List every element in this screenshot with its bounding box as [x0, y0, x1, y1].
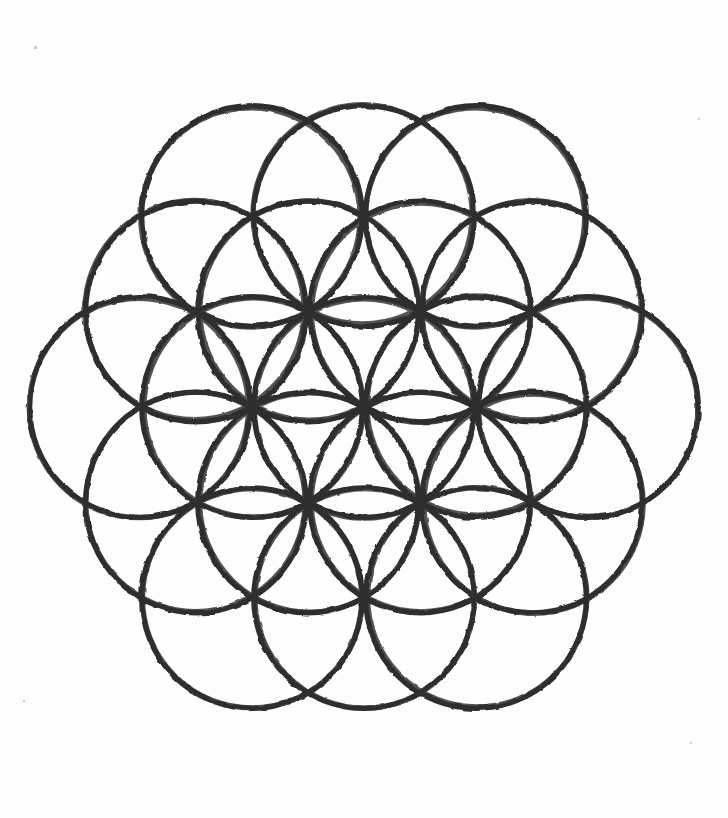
flower-of-life-figure [0, 0, 728, 818]
artboard [0, 0, 728, 818]
